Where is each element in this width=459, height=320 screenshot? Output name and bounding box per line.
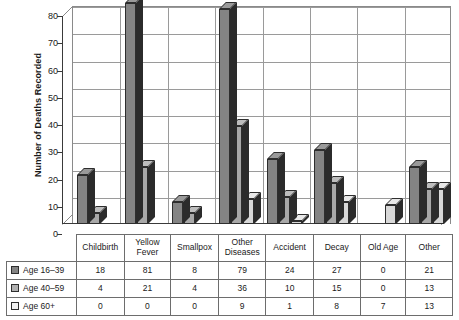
y-tick-mark bbox=[57, 180, 62, 181]
bar-front-face bbox=[267, 159, 278, 224]
table-corner-cell bbox=[7, 235, 77, 262]
table-row: Age 60+000918713 bbox=[7, 298, 453, 316]
bar-group bbox=[262, 6, 309, 224]
cell-r2-c2: 0 bbox=[171, 298, 219, 316]
y-axis-title: Number of Deaths Recorded bbox=[33, 30, 43, 200]
chart-figure: Number of Deaths Recorded 80706050403020… bbox=[0, 0, 459, 320]
bar-group bbox=[404, 6, 451, 224]
cell-r1-c4: 10 bbox=[266, 280, 313, 298]
cell-r0-c7: 21 bbox=[406, 262, 453, 280]
y-tick-mark bbox=[57, 98, 62, 99]
cell-r1-c3: 36 bbox=[218, 280, 266, 298]
column-header-5: Decay bbox=[313, 235, 360, 262]
bar-side-face bbox=[230, 2, 237, 224]
cell-r2-c6: 7 bbox=[360, 298, 406, 316]
cell-r0-c5: 27 bbox=[313, 262, 360, 280]
cell-r2-c7: 13 bbox=[406, 298, 453, 316]
y-tick-mark bbox=[57, 16, 62, 17]
bar-group bbox=[214, 6, 261, 224]
column-header-7: Other bbox=[406, 235, 453, 262]
bar-side-face bbox=[88, 168, 95, 224]
bar-side-face bbox=[278, 152, 285, 224]
y-tick-label: 70 bbox=[36, 39, 58, 48]
y-tick-mark bbox=[57, 207, 62, 208]
cell-r1-c7: 13 bbox=[406, 280, 453, 298]
bar-front-face bbox=[219, 9, 230, 224]
bar-group bbox=[356, 6, 403, 224]
bar-side-face bbox=[325, 143, 332, 224]
bar-side-face bbox=[337, 176, 344, 224]
cell-r0-c0: 18 bbox=[76, 262, 124, 280]
bar-side-face bbox=[136, 0, 143, 224]
cell-r2-c3: 9 bbox=[218, 298, 266, 316]
y-tick-label: 10 bbox=[36, 203, 58, 212]
bar-group bbox=[72, 6, 119, 224]
table-header-row: ChildbirthYellowFeverSmallpoxOtherDiseas… bbox=[7, 235, 453, 262]
cell-r0-c4: 24 bbox=[266, 262, 313, 280]
legend-item-1[interactable]: Age 40–59 bbox=[7, 280, 77, 298]
bar-decay-series-0 bbox=[314, 150, 325, 224]
cell-r2-c1: 0 bbox=[124, 298, 171, 316]
bar-group bbox=[119, 6, 166, 224]
cell-r0-c6: 0 bbox=[360, 262, 406, 280]
bar-other-series-0 bbox=[409, 167, 420, 224]
cell-r2-c0: 0 bbox=[76, 298, 124, 316]
bar-front-face bbox=[314, 150, 325, 224]
y-tick-mark bbox=[57, 125, 62, 126]
cell-r1-c1: 21 bbox=[124, 280, 171, 298]
y-tick-mark bbox=[57, 152, 62, 153]
column-header-4: Accident bbox=[266, 235, 313, 262]
legend-item-0[interactable]: Age 16–39 bbox=[7, 262, 77, 280]
bar-old-age-series-2 bbox=[385, 205, 396, 224]
y-tick-label: 20 bbox=[36, 176, 58, 185]
legend-swatch-icon bbox=[11, 266, 19, 274]
bar-front-face bbox=[385, 205, 396, 224]
cell-r0-c1: 81 bbox=[124, 262, 171, 280]
column-header-6: Old Age bbox=[360, 235, 406, 262]
bar-front-face bbox=[409, 167, 420, 224]
y-tick-mark bbox=[57, 71, 62, 72]
bar-front-face bbox=[77, 175, 88, 224]
cell-r1-c2: 4 bbox=[171, 280, 219, 298]
legend-swatch-icon bbox=[11, 284, 19, 292]
cell-r1-c0: 4 bbox=[76, 280, 124, 298]
bar-side-face bbox=[242, 119, 249, 224]
y-tick-label: 80 bbox=[36, 12, 58, 21]
cell-r1-c5: 15 bbox=[313, 280, 360, 298]
bar-side-face bbox=[420, 160, 427, 224]
column-header-1: YellowFever bbox=[124, 235, 171, 262]
cell-r1-c6: 0 bbox=[360, 280, 406, 298]
legend-swatch-icon bbox=[11, 302, 19, 310]
y-tick-label: 30 bbox=[36, 148, 58, 157]
legend-item-2[interactable]: Age 60+ bbox=[7, 298, 77, 316]
column-header-2: Smallpox bbox=[171, 235, 219, 262]
bar-accident-series-0 bbox=[267, 159, 278, 224]
bar-other-diseases-series-0 bbox=[219, 9, 230, 224]
bar-group bbox=[309, 6, 356, 224]
cell-r0-c2: 8 bbox=[171, 262, 219, 280]
table-row: Age 16–3918818792427021 bbox=[7, 262, 453, 280]
bar-yellow-fever-series-0 bbox=[125, 3, 136, 224]
cell-r2-c4: 1 bbox=[266, 298, 313, 316]
bar-front-face bbox=[172, 202, 183, 224]
column-header-0: Childbirth bbox=[76, 235, 124, 262]
cell-r0-c3: 79 bbox=[218, 262, 266, 280]
bar-front-face bbox=[125, 3, 136, 224]
cell-r2-c5: 8 bbox=[313, 298, 360, 316]
bar-series-group bbox=[72, 6, 451, 224]
y-tick-mark bbox=[57, 43, 62, 44]
bar-childbirth-series-0 bbox=[77, 175, 88, 224]
y-tick-label: 40 bbox=[36, 121, 58, 130]
y-tick-label: 50 bbox=[36, 94, 58, 103]
data-table: ChildbirthYellowFeverSmallpoxOtherDiseas… bbox=[6, 234, 453, 316]
table-row: Age 40–594214361015013 bbox=[7, 280, 453, 298]
plot-area: 80706050403020100 bbox=[62, 6, 451, 234]
bar-group bbox=[167, 6, 214, 224]
column-header-3: OtherDiseases bbox=[218, 235, 266, 262]
bar-side-face bbox=[148, 160, 155, 224]
y-tick-label: 60 bbox=[36, 67, 58, 76]
y-axis-line bbox=[62, 16, 63, 224]
bar-smallpox-series-0 bbox=[172, 202, 183, 224]
